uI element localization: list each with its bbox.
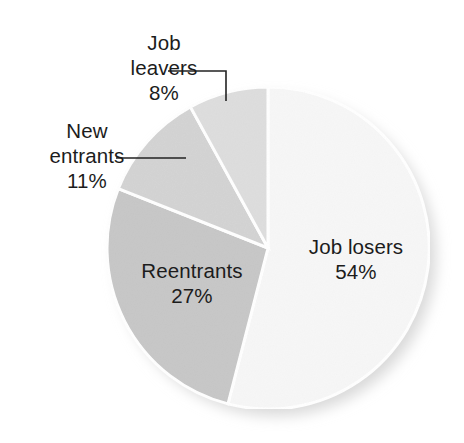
pie-label-job-leavers-line1: Job <box>108 30 220 55</box>
pie-label-new-entrants-value: 11% <box>20 168 154 193</box>
pie-label-job-losers: Job losers 54% <box>283 234 429 284</box>
pie-label-new-entrants-line2: entrants <box>20 143 154 168</box>
pie-label-reentrants-value: 27% <box>118 283 266 308</box>
pie-label-job-losers-value: 54% <box>283 259 429 284</box>
pie-label-reentrants: Reentrants 27% <box>118 258 266 308</box>
pie-label-job-leavers: Job leavers 8% <box>108 30 220 105</box>
pie-label-job-leavers-line2: leavers <box>108 55 220 80</box>
pie-chart-svg <box>0 0 464 443</box>
pie-chart-figure: Job leavers 8% New entrants 11% Reentran… <box>0 0 464 443</box>
pie-label-reentrants-name: Reentrants <box>118 258 266 283</box>
pie-label-job-losers-name: Job losers <box>283 234 429 259</box>
pie-label-job-leavers-value: 8% <box>108 80 220 105</box>
pie-label-new-entrants: New entrants 11% <box>20 118 154 193</box>
pie-label-new-entrants-line1: New <box>20 118 154 143</box>
